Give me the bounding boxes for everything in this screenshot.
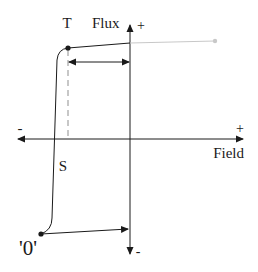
flux-minus-label: - xyxy=(136,244,141,259)
flux-plus-label: + xyxy=(137,18,145,33)
point-zero-dot xyxy=(38,231,43,236)
flux-axis-label: Flux xyxy=(92,15,120,31)
point-s-label: S xyxy=(59,158,67,174)
point-t-label: T xyxy=(62,15,71,31)
point-t-dot xyxy=(65,45,70,50)
extension-endpoint-dot xyxy=(213,39,217,43)
hysteresis-diagram: T Flux + - - + Field S '0' xyxy=(0,0,258,272)
field-axis-label: Field xyxy=(213,145,244,161)
saturation-extension xyxy=(130,39,217,43)
field-plus-label: + xyxy=(236,121,244,136)
field-minus-label: - xyxy=(18,120,23,136)
zero-state-arrow xyxy=(41,229,128,234)
point-zero-label: '0' xyxy=(19,236,37,260)
